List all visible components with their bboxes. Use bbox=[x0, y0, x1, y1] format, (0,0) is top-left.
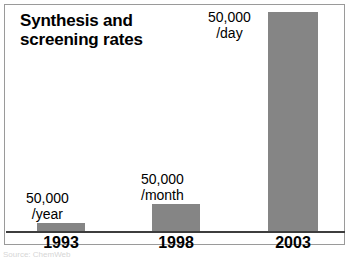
value-unit-1998: /month bbox=[141, 188, 184, 204]
value-number-2003: 50,000 bbox=[208, 10, 251, 26]
value-unit-2003: /day bbox=[208, 26, 251, 42]
bar-1998 bbox=[152, 204, 200, 231]
value-label-2003: 50,000 /day bbox=[208, 10, 251, 41]
value-number-1998: 50,000 bbox=[141, 172, 184, 188]
value-number-1993: 50,000 bbox=[26, 191, 69, 207]
value-unit-1993: /year bbox=[26, 207, 69, 223]
bar-1993 bbox=[37, 223, 85, 231]
bar-chart-figure: Synthesis and screening rates 50,000 /ye… bbox=[0, 0, 354, 260]
value-label-1998: 50,000 /month bbox=[141, 172, 184, 203]
source-credit: Source: ChemWeb bbox=[3, 250, 70, 259]
value-label-1993: 50,000 /year bbox=[26, 191, 69, 222]
bar-2003 bbox=[268, 12, 318, 231]
x-tick-label-1998: 1998 bbox=[136, 234, 216, 252]
x-tick-label-2003: 2003 bbox=[252, 234, 334, 252]
x-axis-line bbox=[6, 231, 345, 233]
